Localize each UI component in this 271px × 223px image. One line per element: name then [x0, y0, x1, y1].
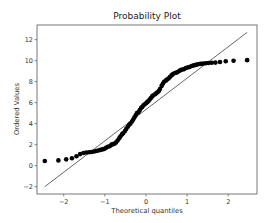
- x-tick-label: 0: [144, 198, 148, 206]
- x-axis-label: Theoretical quantiles: [110, 207, 183, 215]
- probability-plot: Probability Plot −2−1012 −2024681012 The…: [0, 0, 271, 223]
- x-tick-label: −2: [59, 198, 69, 206]
- plot-area: [43, 32, 250, 186]
- data-point: [70, 156, 75, 161]
- data-point: [245, 58, 250, 63]
- y-axis-ticks: −2024681012: [23, 36, 37, 191]
- y-tick-label: 12: [25, 36, 33, 44]
- y-tick-label: −2: [23, 183, 33, 191]
- y-axis-label: Ordered Values: [13, 83, 21, 135]
- data-point: [223, 59, 228, 64]
- x-tick-label: 1: [185, 198, 189, 206]
- y-tick-label: 8: [29, 78, 33, 86]
- data-point: [56, 158, 61, 163]
- y-tick-label: 2: [29, 141, 33, 149]
- y-tick-label: 4: [29, 120, 33, 128]
- chart-title: Probability Plot: [113, 11, 181, 21]
- x-tick-label: 2: [226, 198, 230, 206]
- data-point: [64, 157, 69, 162]
- data-point: [218, 60, 223, 65]
- data-point: [231, 58, 236, 63]
- data-point: [213, 60, 218, 65]
- fit-line: [45, 32, 247, 186]
- y-tick-label: 10: [25, 57, 33, 65]
- y-tick-label: 0: [29, 162, 33, 170]
- x-tick-label: −1: [100, 198, 110, 206]
- y-tick-label: 6: [29, 99, 33, 107]
- x-axis-ticks: −2−1012: [59, 194, 230, 206]
- data-point: [43, 159, 48, 164]
